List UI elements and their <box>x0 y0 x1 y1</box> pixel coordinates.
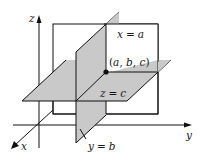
plane-y-equals-b-lower <box>76 101 106 143</box>
x-axis-label: x <box>21 140 27 152</box>
point-label: (a, b, c) <box>109 56 149 68</box>
plane-x-label: x=a <box>117 28 144 40</box>
z-axis <box>37 15 42 148</box>
coordinate-planes-diagram: z y x <box>0 0 203 163</box>
point-abc <box>103 69 108 74</box>
plane-y-label: y=b <box>87 140 116 152</box>
z-axis-label: z <box>28 12 35 24</box>
plane-z-label: z=c <box>99 87 126 99</box>
x-axis <box>11 110 53 149</box>
y-axis-label: y <box>185 129 193 141</box>
y-axis <box>13 123 192 128</box>
